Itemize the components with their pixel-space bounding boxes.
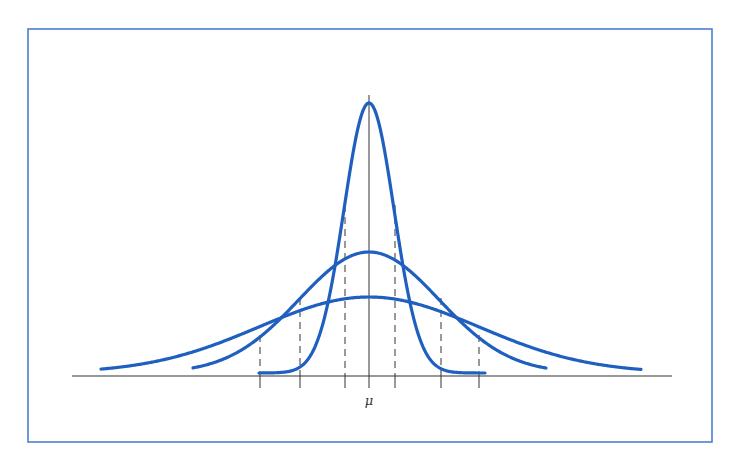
- normal-distributions-chart: μ: [0, 0, 742, 471]
- curve-wide: [101, 297, 641, 369]
- curve-narrow: [259, 103, 485, 373]
- distribution-curves: [101, 103, 641, 373]
- mean-label: μ: [365, 393, 373, 408]
- chart-frame: [28, 29, 712, 442]
